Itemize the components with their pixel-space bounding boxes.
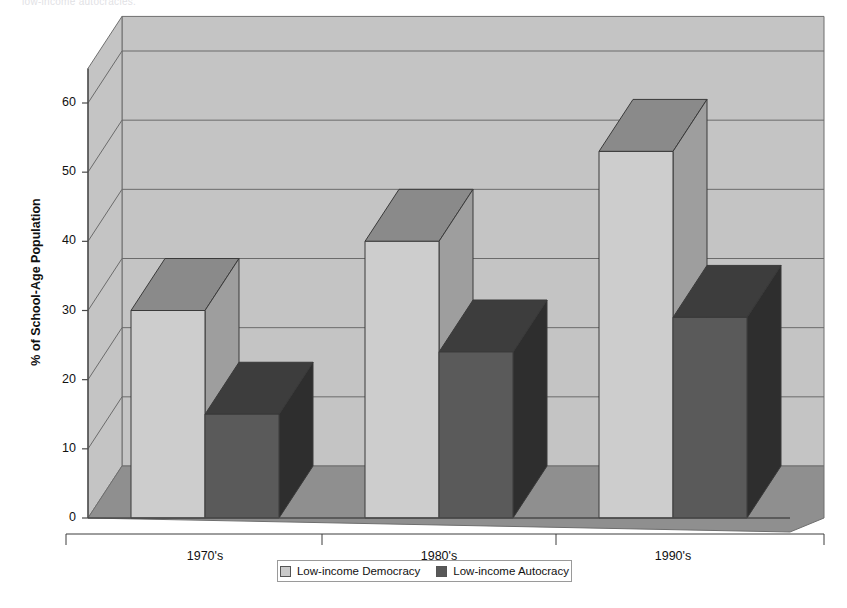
bar-1980s-democracy-front — [365, 241, 439, 518]
chart-legend: Low-income Democracy Low-income Autocrac… — [277, 560, 572, 582]
legend-label-democracy: Low-income Democracy — [297, 565, 420, 577]
chart-canvas — [0, 0, 847, 608]
bar-1990s-autocracy-front — [673, 317, 747, 518]
x-category-label-0: 1970's — [145, 549, 265, 563]
bar-1970s-democracy-front — [131, 311, 205, 519]
y-axis-title: % of School-Age Population — [29, 162, 43, 402]
legend-item-0: Low-income Democracy — [280, 565, 420, 577]
legend-item-1: Low-income Autocracy — [436, 565, 569, 577]
y-tick-label-40: 40 — [42, 233, 76, 247]
legend-swatch-democracy — [280, 566, 291, 577]
bar-1990s-democracy-front — [599, 151, 673, 518]
bar-1970s-autocracy-front — [205, 414, 279, 518]
y-tick-label-60: 60 — [42, 95, 76, 109]
x-category-label-2: 1990's — [613, 549, 733, 563]
y-tick-label-10: 10 — [42, 441, 76, 455]
y-tick-label-30: 30 — [42, 303, 76, 317]
y-tick-label-20: 20 — [42, 372, 76, 386]
y-tick-label-0: 0 — [42, 510, 76, 524]
y-tick-label-50: 50 — [42, 164, 76, 178]
chart-page: low-income autocracies. Median Levels of… — [0, 0, 847, 608]
legend-swatch-autocracy — [436, 566, 447, 577]
legend-label-autocracy: Low-income Autocracy — [453, 565, 569, 577]
bar-1980s-autocracy-front — [439, 352, 513, 518]
